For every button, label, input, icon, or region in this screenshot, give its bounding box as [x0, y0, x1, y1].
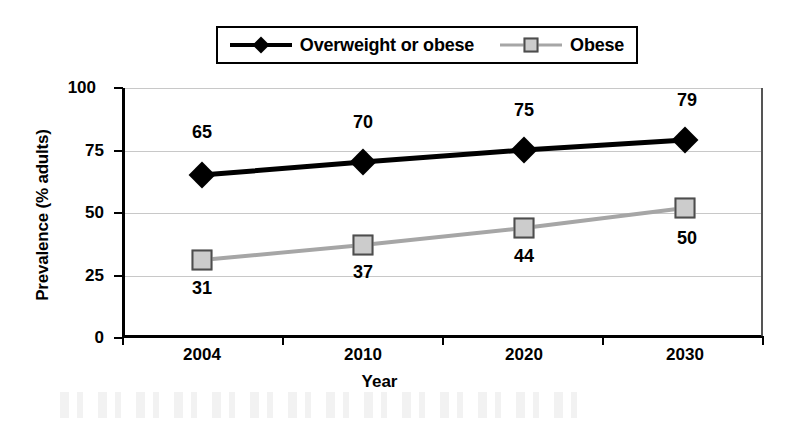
legend-label-obese: Obese	[570, 35, 624, 56]
data-point-obese-2004	[192, 250, 213, 271]
data-label-obese-2010: 37	[333, 262, 393, 283]
gridline-50	[125, 213, 761, 214]
data-label-overweight-2020: 75	[494, 100, 554, 121]
x-tick-label-2004: 2004	[157, 345, 247, 365]
chart-figure: Overweight or obese Obese Prevalence (% …	[0, 0, 799, 427]
x-axis-title: Year	[0, 372, 799, 392]
data-label-obese-2030: 50	[657, 228, 717, 249]
x-tick-mark-3	[602, 336, 604, 345]
x-tick-label-2010: 2010	[318, 345, 408, 365]
scan-artifact	[60, 392, 580, 418]
data-label-overweight-2004: 65	[172, 122, 232, 143]
data-label-overweight-2010: 70	[333, 112, 393, 133]
x-axis-title-text: Year	[362, 372, 398, 392]
legend-label-overweight-or-obese: Overweight or obese	[300, 35, 474, 56]
gridline-25	[125, 276, 761, 277]
chart-legend: Overweight or obese Obese	[216, 26, 638, 64]
data-point-obese-2020	[514, 218, 535, 239]
y-tick-label-50: 50	[44, 203, 104, 223]
x-tick-label-2030: 2030	[640, 345, 730, 365]
data-point-obese-2030	[675, 198, 696, 219]
y-tick-label-0: 0	[44, 328, 104, 348]
data-label-overweight-2030: 79	[657, 90, 717, 111]
x-tick-mark-2	[442, 336, 444, 345]
gridline-100	[125, 88, 761, 89]
data-label-obese-2020: 44	[494, 246, 554, 267]
y-tick-label-25: 25	[44, 266, 104, 286]
data-point-obese-2010	[353, 235, 374, 256]
x-tick-label-2020: 2020	[479, 345, 569, 365]
y-tick-label-75: 75	[44, 141, 104, 161]
x-tick-mark-1	[282, 336, 284, 345]
x-tick-mark-0	[122, 336, 124, 345]
square-marker-icon	[500, 36, 562, 54]
legend-entry-overweight-or-obese: Overweight or obese	[230, 35, 474, 56]
legend-entry-obese: Obese	[500, 35, 624, 56]
data-label-obese-2004: 31	[172, 278, 232, 299]
diamond-marker-icon	[230, 36, 292, 54]
y-tick-label-100: 100	[36, 78, 96, 98]
gridline-75	[125, 151, 761, 152]
x-tick-mark-4	[762, 336, 764, 345]
